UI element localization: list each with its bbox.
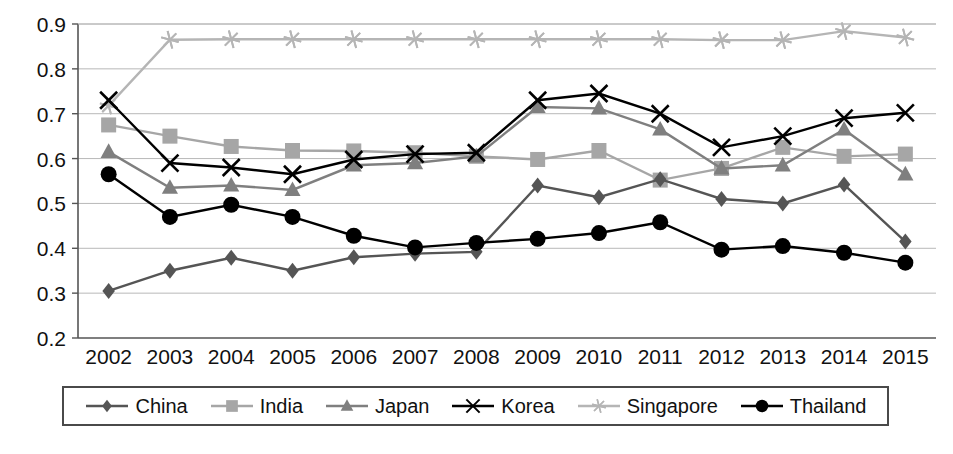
marker-diamond [777,195,789,211]
legend-item-korea[interactable]: Korea [450,395,554,418]
marker-square [530,152,545,167]
marker-square [591,143,606,158]
marker-circle [897,255,913,271]
series-china [102,171,911,299]
marker-circle [591,225,607,241]
legend-marker-circle-icon [739,395,785,417]
y-tick-label: 0.6 [37,148,66,171]
legend-label: India [260,395,303,418]
x-tick-label: 2009 [514,345,561,368]
marker-circle [836,245,852,261]
marker-circle [714,242,730,258]
x-tick-label: 2011 [638,345,683,368]
y-tick-label: 0.4 [37,237,67,260]
marker-circle [775,238,791,254]
x-tick-label: 2015 [882,345,929,368]
x-tick-label: 2004 [208,345,255,368]
x-tick-label: 2007 [392,345,439,368]
y-tick-label: 0.5 [37,192,66,215]
x-tick-label: 2002 [85,345,132,368]
legend-marker-diamond-icon [84,395,130,417]
series-korea [100,85,914,183]
legend-label: China [135,395,187,418]
legend-label: Korea [501,395,554,418]
marker-square [898,147,913,162]
series-line [109,179,906,291]
marker-circle [346,228,362,244]
legend-label: Singapore [627,395,718,418]
marker-square [162,129,177,144]
marker-diamond [593,189,605,205]
marker-circle [468,235,484,251]
marker-diamond [348,249,360,265]
x-tick-label: 2008 [453,345,500,368]
marker-circle [756,400,768,412]
marker-circle [101,166,117,182]
plot-area: 0.20.30.40.50.60.70.80.92002200320042005… [0,0,953,380]
marker-circle [407,239,423,255]
marker-circle [285,209,301,225]
marker-circle [162,209,178,225]
x-tick-label: 2012 [698,345,745,368]
marker-triangle [101,143,117,158]
legend-item-china[interactable]: China [84,395,187,418]
marker-square [285,143,300,158]
x-tick-label: 2003 [147,345,194,368]
marker-square [226,400,238,412]
legend-marker-square-icon [209,395,255,417]
chart-legend: ChinaIndiaJapanKoreaSingaporeThailand [62,386,889,426]
legend-marker-triangle-icon [324,395,370,417]
x-tick-label: 2014 [821,345,868,368]
marker-circle [530,231,546,247]
y-tick-label: 0.7 [37,103,66,126]
marker-square [101,117,116,132]
marker-circle [223,197,239,213]
x-tick-label: 2006 [330,345,377,368]
legend-label: Thailand [790,395,867,418]
marker-square [224,139,239,154]
marker-diamond [286,263,298,279]
y-tick-label: 0.9 [37,13,66,36]
marker-diamond [103,400,113,412]
y-tick-label: 0.2 [37,327,66,350]
legend-item-singapore[interactable]: Singapore [576,395,718,418]
x-tick-label: 2013 [759,345,806,368]
legend-marker-asterisk-icon [576,395,622,417]
marker-triangle [223,177,239,192]
legend-item-japan[interactable]: Japan [324,395,430,418]
plot-svg: 0.20.30.40.50.60.70.80.92002200320042005… [0,0,953,380]
marker-square [346,143,361,158]
x-tick-label: 2005 [269,345,316,368]
marker-triangle [897,166,913,181]
line-chart: 0.20.30.40.50.60.70.80.92002200320042005… [0,0,953,454]
series-japan [101,98,914,196]
legend-marker-x-icon [450,395,496,417]
marker-diamond [164,263,176,279]
legend-item-thailand[interactable]: Thailand [739,395,867,418]
marker-square [837,149,852,164]
legend-item-india[interactable]: India [209,395,303,418]
marker-diamond [102,283,114,299]
y-tick-label: 0.8 [37,58,66,81]
x-tick-label: 2010 [576,345,623,368]
marker-diamond [225,250,237,266]
legend-label: Japan [375,395,430,418]
marker-circle [652,214,668,230]
y-tick-label: 0.3 [37,282,66,305]
marker-diamond [715,191,727,207]
